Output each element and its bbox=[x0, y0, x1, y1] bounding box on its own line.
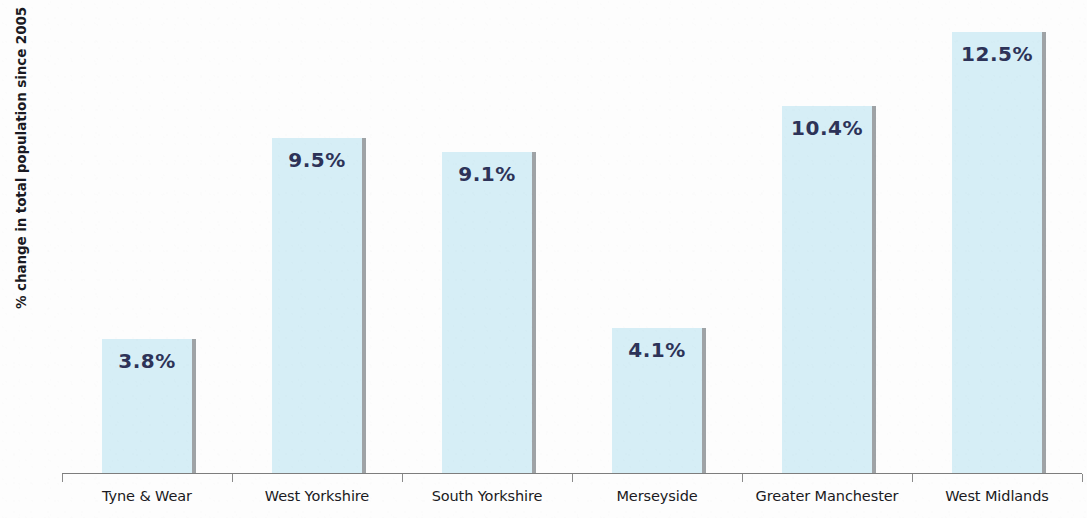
x-axis-category-label: Tyne & Wear bbox=[62, 488, 232, 504]
bar-shadow bbox=[702, 328, 706, 473]
bar[interactable] bbox=[442, 152, 532, 473]
bar-chart: % change in total population since 2005 … bbox=[0, 0, 1087, 518]
bar-shadow bbox=[872, 106, 876, 473]
bar-value-label: 12.5% bbox=[952, 42, 1042, 66]
x-axis-category-label: Greater Manchester bbox=[742, 488, 912, 504]
bar-group: 9.1% bbox=[442, 0, 532, 473]
bar[interactable] bbox=[952, 32, 1042, 473]
x-axis-tick bbox=[232, 474, 233, 482]
bar-value-label: 9.1% bbox=[442, 162, 532, 186]
bar-group: 10.4% bbox=[782, 0, 872, 473]
bar[interactable] bbox=[272, 138, 362, 473]
x-axis-tick bbox=[62, 474, 63, 482]
bar-shadow bbox=[532, 152, 536, 473]
bar-group: 4.1% bbox=[612, 0, 702, 473]
x-axis-tick bbox=[572, 474, 573, 482]
x-axis-tick bbox=[912, 474, 913, 482]
x-axis-tick bbox=[402, 474, 403, 482]
x-axis-tick bbox=[742, 474, 743, 482]
bar-value-label: 9.5% bbox=[272, 148, 362, 172]
x-axis-category-label: West Midlands bbox=[912, 488, 1082, 504]
bar-shadow bbox=[192, 339, 196, 473]
bar-value-label: 4.1% bbox=[612, 338, 702, 362]
bar-shadow bbox=[1042, 32, 1046, 473]
bar-value-label: 10.4% bbox=[782, 116, 872, 140]
bar-group: 3.8% bbox=[102, 0, 192, 473]
bar-group: 9.5% bbox=[272, 0, 362, 473]
bar-value-label: 3.8% bbox=[102, 349, 192, 373]
x-axis-category-label: South Yorkshire bbox=[402, 488, 572, 504]
x-axis-category-label: West Yorkshire bbox=[232, 488, 402, 504]
y-axis-title: % change in total population since 2005 bbox=[6, 0, 36, 474]
bar[interactable] bbox=[782, 106, 872, 473]
x-axis-category-label: Merseyside bbox=[572, 488, 742, 504]
bar-group: 12.5% bbox=[952, 0, 1042, 473]
bar-shadow bbox=[362, 138, 366, 473]
y-axis-title-text: % change in total population since 2005 bbox=[13, 7, 29, 309]
x-axis-tick bbox=[1082, 474, 1083, 482]
plot-area: 3.8%9.5%9.1%4.1%10.4%12.5% Tyne & WearWe… bbox=[62, 0, 1082, 474]
